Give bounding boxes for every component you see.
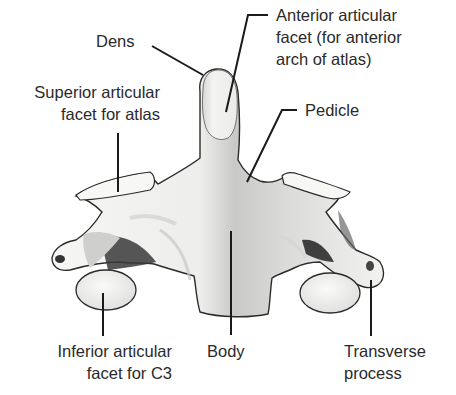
label-anterior-articular-facet: Anterior articular facet (for anterior a… [276, 4, 402, 70]
dens-process [202, 70, 237, 140]
right-inferior-facet [300, 273, 360, 313]
label-dens-text: Dens [96, 30, 135, 52]
label-line: facet for atlas [8, 103, 160, 125]
label-pedicle: Pedicle [305, 99, 359, 121]
label-line: Transverse [344, 340, 426, 362]
label-line: Superior articular [8, 81, 160, 103]
label-line: Anterior articular [276, 4, 402, 26]
label-line: Inferior articular [30, 340, 172, 362]
label-superior-articular-facet: Superior articular facet for atlas [8, 81, 160, 125]
label-line: arch of atlas) [276, 48, 402, 70]
pedicle-leader [247, 110, 297, 182]
left-inferior-facet [76, 270, 136, 310]
diagram-canvas: Dens Anterior articular facet (for anter… [0, 0, 456, 395]
label-dens: Dens [96, 30, 135, 52]
left-transverse-foramen [55, 255, 65, 263]
label-line: process [344, 362, 426, 384]
right-transverse-foramen [366, 261, 374, 271]
dens-leader [152, 46, 203, 75]
label-line: facet (for anterior [276, 26, 402, 48]
label-body: Body [207, 340, 245, 362]
label-line: facet for C3 [30, 362, 172, 384]
label-transverse-process: Transverse process [344, 340, 426, 384]
label-line: Pedicle [305, 99, 359, 121]
label-inferior-articular-facet: Inferior articular facet for C3 [30, 340, 172, 384]
label-line: Body [207, 340, 245, 362]
